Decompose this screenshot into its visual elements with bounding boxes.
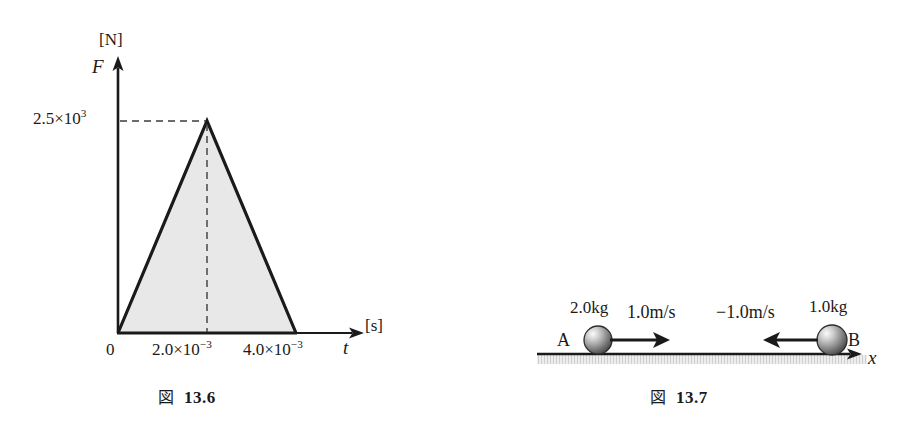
x-axis-variable-label: x [868, 348, 876, 367]
figure-collision-diagram: 2.0kg A 1.0m/s −1.0m/s 1.0kg B x 図 13.7 [460, 0, 911, 435]
x-axis-unit-label: [s] [365, 317, 383, 334]
ball-b-name-label: B [848, 331, 860, 349]
x-tick-end-mantissa: 4.0×10 [243, 340, 291, 359]
ball-b-mass-label: 1.0kg [809, 298, 847, 315]
x-tick-peak-mantissa: 2.0×10 [152, 340, 200, 359]
ground-hatch-band [537, 355, 867, 364]
ball-a-name-label: A [557, 331, 570, 349]
y-axis-variable-label: F [92, 57, 104, 76]
x-tick-end-exponent: −3 [291, 338, 303, 350]
y-tick-exponent: 3 [81, 107, 87, 119]
x-tick-peak-exponent: −3 [200, 338, 212, 350]
figure-right-caption: 図 13.7 [650, 384, 708, 408]
ball-a-mass-label: 2.0kg [570, 299, 608, 316]
x-tick-label-peak: 2.0×10−3 [152, 341, 212, 358]
y-tick-label-peak: 2.5×103 [33, 110, 86, 127]
figure-left-caption-prefix: 図 [158, 388, 175, 407]
ball-a [584, 326, 612, 354]
x-tick-label-origin: 0 [106, 341, 115, 358]
ball-b [817, 325, 847, 355]
ball-b-velocity-label: −1.0m/s [716, 303, 775, 321]
figure-right-caption-number: 13.7 [676, 388, 708, 407]
ball-a-velocity-label: 1.0m/s [627, 303, 676, 321]
figure-left-caption: 図 13.6 [158, 384, 216, 408]
collision-diagram-svg [460, 0, 911, 435]
figure-impulse-graph: [N] F 2.5×103 0 2.0×10−3 4.0×10−3 t [s] … [0, 0, 460, 435]
x-tick-label-end: 4.0×10−3 [243, 341, 303, 358]
x-axis-variable-label: t [343, 338, 348, 357]
impulse-graph-svg [0, 0, 460, 435]
figure-left-caption-number: 13.6 [184, 388, 216, 407]
figure-right-caption-prefix: 図 [650, 388, 667, 407]
y-tick-mantissa: 2.5×10 [33, 109, 81, 128]
y-axis-unit-label: [N] [99, 31, 123, 48]
